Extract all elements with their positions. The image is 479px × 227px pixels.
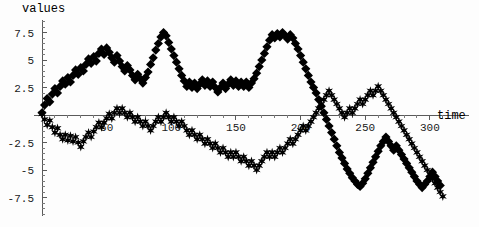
y-axis-tick-label: 2.5 <box>14 83 34 95</box>
x-axis-title: time <box>437 109 466 123</box>
x-axis-tick-label: 250 <box>355 122 375 134</box>
y-axis-tick-label: -2.5 <box>8 138 34 150</box>
chart-canvas: 501001502002503007.552.5-2.5-5-7.5 <box>0 0 479 227</box>
scatter-plot-figure: 501001502002503007.552.5-2.5-5-7.5 value… <box>0 0 479 227</box>
y-axis-tick-label: 5 <box>27 55 34 67</box>
y-axis-tick-label: 7.5 <box>14 28 34 40</box>
x-axis-tick-label: 300 <box>420 122 440 134</box>
plot-background <box>0 0 479 227</box>
y-axis-tick-label: -5 <box>21 165 34 177</box>
y-axis-title: values <box>22 2 65 16</box>
x-axis-tick-label: 150 <box>226 122 246 134</box>
y-axis-tick-label: -7.5 <box>8 193 34 205</box>
